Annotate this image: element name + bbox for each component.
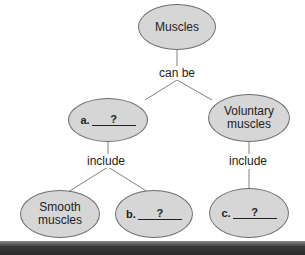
blank-letter: b.	[126, 208, 136, 221]
node-c-blank: c. ?	[209, 188, 289, 238]
node-label: Voluntary muscles	[217, 105, 281, 131]
node-voluntary-muscles: Voluntary muscles	[208, 94, 290, 142]
node-label: Smooth muscles	[33, 201, 87, 227]
blank-letter: a.	[80, 114, 89, 127]
blank-letter: c.	[221, 207, 230, 220]
link-include-right: include	[227, 154, 269, 168]
node-a-blank: a. ?	[68, 98, 148, 142]
node-label: Muscles	[155, 21, 199, 34]
link-include-left: include	[85, 154, 127, 168]
node-muscles: Muscles	[138, 4, 216, 50]
blank-answer: ?	[233, 206, 277, 219]
node-smooth-muscles: Smooth muscles	[20, 190, 100, 238]
blank-answer: ?	[138, 207, 182, 220]
link-can-be: can be	[157, 66, 197, 80]
bottom-dark-band	[0, 241, 305, 255]
blank-answer: ?	[92, 113, 136, 126]
node-b-blank: b. ?	[115, 190, 193, 238]
